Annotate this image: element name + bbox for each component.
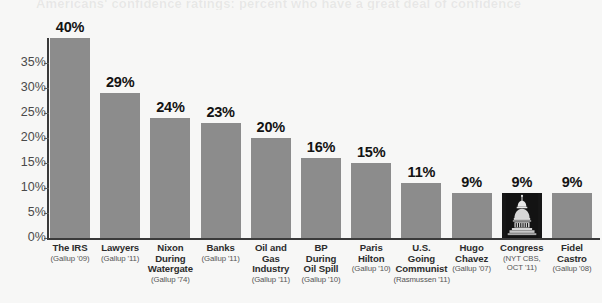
x-axis-category-label: Lawyers(Gallup '11) [92, 243, 148, 263]
y-axis-tick-mark [44, 63, 49, 64]
x-axis-category-label: Congress(NYT CBS,OCT '11) [494, 243, 550, 272]
y-axis-tick-mark [44, 138, 49, 139]
category-source-label: (Rasmussen '11) [393, 275, 449, 284]
category-label-line: Banks [193, 243, 249, 254]
category-label-line: Hugo [444, 243, 500, 254]
y-axis-tick-label: 30% [0, 80, 46, 94]
bar[interactable] [100, 93, 140, 238]
y-axis-tick-mark [44, 88, 49, 89]
y-axis-tick-label: 10% [0, 180, 46, 194]
category-label-line: Paris [343, 243, 399, 254]
bar-value-label: 20% [241, 119, 301, 135]
category-source-label: (Gallup '11) [193, 254, 249, 263]
category-label-line: Lawyers [92, 243, 148, 254]
chart-container: Americans' confidence ratings: percent w… [0, 0, 602, 303]
bar-value-label: 40% [40, 19, 100, 35]
x-axis-category-label: ParisHilton(Gallup '10) [343, 243, 399, 273]
category-label-line: BP [293, 243, 349, 254]
y-axis-tick-label: 35% [0, 55, 46, 69]
category-source-label: (Gallup '10) [293, 275, 349, 284]
category-label-line: Watergate [142, 264, 198, 275]
capitol-dome-icon [502, 193, 542, 238]
category-label-line: Oil and [243, 243, 299, 254]
x-axis-category-label: Oil andGasIndustry(Gallup '11) [243, 243, 299, 284]
category-source-label: (Gallup '08) [544, 264, 600, 273]
bar-value-label: 9% [542, 174, 602, 190]
y-axis-tick-label: 15% [0, 155, 46, 169]
category-label-line: U.S. [393, 243, 449, 254]
y-axis-tick-label: 25% [0, 105, 46, 119]
category-source-label: OCT '11) [494, 263, 550, 272]
category-source-label: (Gallup '74) [142, 275, 198, 284]
x-axis-category-label: The IRS(Gallup '09) [42, 243, 98, 263]
bar[interactable] [351, 163, 391, 238]
y-axis-tick-label: 0% [0, 230, 46, 244]
bar[interactable] [301, 158, 341, 238]
x-axis-category-label: Banks(Gallup '11) [193, 243, 249, 263]
y-axis-tick-mark [44, 163, 49, 164]
bar-value-label: 23% [191, 104, 251, 120]
y-axis-tick-mark [44, 113, 49, 114]
bar[interactable] [150, 118, 190, 238]
y-axis-tick-label: 5% [0, 205, 46, 219]
category-source-label: (Gallup '09) [42, 254, 98, 263]
x-axis-category-label: HugoChavez(Gallup '07) [444, 243, 500, 273]
bar[interactable] [251, 138, 291, 238]
bar[interactable] [50, 38, 90, 238]
category-label-line: Hilton [343, 254, 399, 265]
bar-value-label: 29% [90, 74, 150, 90]
category-source-label: (Gallup '10) [343, 264, 399, 273]
category-label-line: Chavez [444, 254, 500, 265]
category-label-line: Communist [393, 264, 449, 275]
bar[interactable] [201, 123, 241, 238]
x-axis-category-label: NixonDuringWatergate(Gallup '74) [142, 243, 198, 284]
category-source-label: (Gallup '11) [243, 275, 299, 284]
bar[interactable] [552, 193, 592, 238]
category-label-line: Industry [243, 264, 299, 275]
plot-area: 0%5%10%15%20%25%30%35% 40%The IRS(Gallup… [0, 0, 602, 303]
x-axis-line [47, 238, 600, 240]
x-axis-category-label: BPDuringOil Spill(Gallup '10) [293, 243, 349, 284]
category-label-line: Oil Spill [293, 264, 349, 275]
category-label-line: Nixon [142, 243, 198, 254]
bar[interactable] [502, 193, 542, 238]
category-label-line: The IRS [42, 243, 98, 254]
category-label-line: Fidel [544, 243, 600, 254]
y-axis-tick-label: 20% [0, 130, 46, 144]
y-axis-tick-mark [44, 213, 49, 214]
y-axis-tick-mark [44, 188, 49, 189]
category-label-line: Castro [544, 254, 600, 265]
bar[interactable] [401, 183, 441, 238]
category-source-label: (NYT CBS, [494, 254, 550, 263]
x-axis-category-label: FidelCastro(Gallup '08) [544, 243, 600, 273]
category-source-label: (Gallup '07) [444, 264, 500, 273]
x-axis-category-label: U.S.GoingCommunist(Rasmussen '11) [393, 243, 449, 284]
category-label-line: Congress [494, 243, 550, 254]
bar[interactable] [452, 193, 492, 238]
category-source-label: (Gallup '11) [92, 254, 148, 263]
bar-value-label: 15% [341, 144, 401, 160]
